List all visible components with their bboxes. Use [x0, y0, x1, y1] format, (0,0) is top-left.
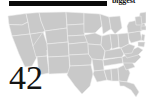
state-massachusetts	[141, 26, 146, 30]
state-vermont-nh	[135, 16, 142, 25]
state-new-mexico	[48, 56, 70, 74]
state-north-dakota	[66, 12, 84, 25]
state-colorado	[47, 42, 69, 57]
page-title: biggest	[112, 0, 148, 5]
state-new-jersey	[141, 34, 145, 41]
state-alabama	[111, 68, 119, 81]
state-arkansas	[92, 59, 104, 71]
state-maryland-delaware	[138, 42, 145, 47]
page-root: biggest	[0, 0, 148, 100]
state-kansas	[69, 42, 89, 55]
state-wyoming	[45, 28, 68, 44]
state-minnesota	[84, 13, 102, 33]
state-south-dakota	[67, 24, 85, 36]
state-michigan	[109, 16, 122, 34]
state-florida	[119, 81, 139, 97]
state-oklahoma	[69, 54, 92, 66]
state-texas	[67, 65, 93, 94]
header-redaction-bar	[9, 1, 107, 6]
overlay-number: 42	[9, 61, 43, 95]
